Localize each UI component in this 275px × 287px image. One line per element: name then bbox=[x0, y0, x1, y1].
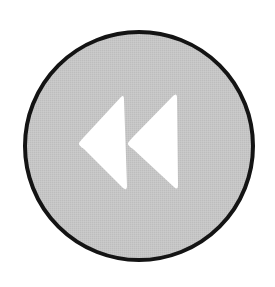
rewind-button[interactable]: Rewind bbox=[0, 0, 275, 287]
stage: Rewind bbox=[0, 0, 275, 287]
rewind-button-graphic bbox=[0, 0, 275, 287]
